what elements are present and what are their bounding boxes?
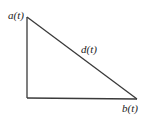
horizontal-leg (27, 98, 137, 99)
triangle-diagram: a(t) d(t) b(t) (0, 0, 160, 121)
label-b: b(t) (122, 102, 138, 115)
label-d: d(t) (81, 43, 97, 56)
label-a: a(t) (8, 9, 24, 22)
hypotenuse (27, 17, 137, 99)
